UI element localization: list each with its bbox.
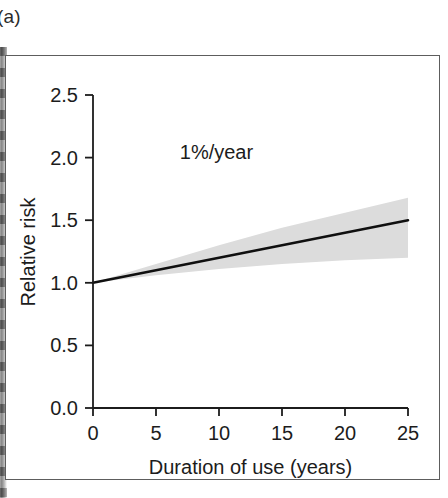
confidence-band-area bbox=[93, 198, 408, 283]
x-tick-label: 10 bbox=[208, 422, 230, 445]
x-tick-label: 5 bbox=[150, 422, 161, 445]
y-tick-label: 0.5 bbox=[0, 334, 78, 357]
y-tick-label: 2.0 bbox=[0, 146, 78, 169]
x-tick-label: 15 bbox=[271, 422, 293, 445]
y-tick-label: 1.0 bbox=[0, 271, 78, 294]
x-tick-label: 0 bbox=[87, 422, 98, 445]
confidence-band bbox=[93, 198, 408, 283]
y-tick-label: 2.5 bbox=[0, 84, 78, 107]
x-tick-label: 20 bbox=[334, 422, 356, 445]
rate-annotation: 1%/year bbox=[180, 141, 253, 164]
x-axis-title: Duration of use (years) bbox=[149, 456, 352, 479]
y-tick-label: 0.0 bbox=[0, 397, 78, 420]
x-tick-label: 25 bbox=[397, 422, 419, 445]
figure-page: (a) Relative risk Duration of use (years… bbox=[0, 0, 448, 498]
y-tick-label: 1.5 bbox=[0, 209, 78, 232]
